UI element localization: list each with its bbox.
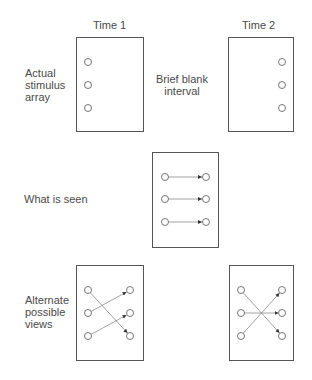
stimulus-dot xyxy=(162,219,169,226)
stimulus-dot xyxy=(238,310,245,317)
label-actual-line1: Actual xyxy=(25,67,56,79)
panel-time-2 xyxy=(229,38,294,132)
label-interval-line2: interval xyxy=(164,85,199,97)
label-alternate-line3: views xyxy=(25,318,53,330)
stimulus-dot xyxy=(85,105,92,112)
header-time-1: Time 1 xyxy=(93,19,126,31)
stimulus-dot xyxy=(85,333,92,340)
stimulus-dot xyxy=(127,287,134,294)
motion-perception-diagram: Time 1 Time 2 Actual stimulus array Brie… xyxy=(0,0,312,380)
label-alternate-line1: Alternate xyxy=(25,294,69,306)
stimulus-dot xyxy=(85,310,92,317)
stimulus-dot xyxy=(279,82,286,89)
stimulus-dot xyxy=(85,59,92,66)
stimulus-dot xyxy=(85,287,92,294)
stimulus-dot xyxy=(203,174,210,181)
panel-what-is-seen xyxy=(153,153,219,248)
panel-alternate-2 xyxy=(230,266,294,361)
stimulus-dot xyxy=(162,174,169,181)
motion-arrow xyxy=(91,293,128,333)
label-interval-line1: Brief blank xyxy=(156,73,208,85)
stimulus-dot xyxy=(238,287,245,294)
stimulus-dot xyxy=(279,59,286,66)
label-alternate-line2: possible xyxy=(25,306,65,318)
stimulus-dot xyxy=(279,333,286,340)
header-time-2: Time 2 xyxy=(242,19,275,31)
stimulus-dot xyxy=(127,333,134,340)
stimulus-dot xyxy=(85,82,92,89)
panel-alternate-1 xyxy=(77,266,144,361)
stimulus-dot xyxy=(203,219,210,226)
stimulus-dot xyxy=(279,287,286,294)
stimulus-dot xyxy=(238,333,245,340)
stimulus-dot xyxy=(279,310,286,317)
label-what-is-seen: What is seen xyxy=(24,193,88,205)
label-actual-line3: array xyxy=(25,91,51,103)
label-actual-line2: stimulus xyxy=(25,79,66,91)
stimulus-dot xyxy=(127,310,134,317)
stimulus-dot xyxy=(279,105,286,112)
stimulus-dot xyxy=(203,196,210,203)
motion-arrow xyxy=(91,315,127,335)
panel-time-1 xyxy=(77,38,144,132)
motion-arrow xyxy=(91,292,127,312)
stimulus-dot xyxy=(162,196,169,203)
